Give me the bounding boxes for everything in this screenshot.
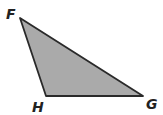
triangle-diagram: F H G bbox=[0, 0, 163, 115]
vertex-label-h: H bbox=[32, 99, 44, 115]
vertex-label-f: F bbox=[6, 6, 16, 22]
vertex-label-g: G bbox=[146, 96, 158, 112]
triangle-fgh bbox=[20, 18, 143, 96]
